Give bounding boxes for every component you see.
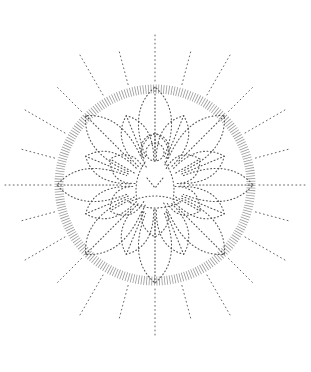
lotus-petals — [57, 87, 253, 283]
stippled-ring — [59, 89, 251, 281]
rays — [3, 33, 307, 337]
mandala-artwork — [0, 0, 311, 372]
seated-figure-icon — [129, 134, 181, 208]
